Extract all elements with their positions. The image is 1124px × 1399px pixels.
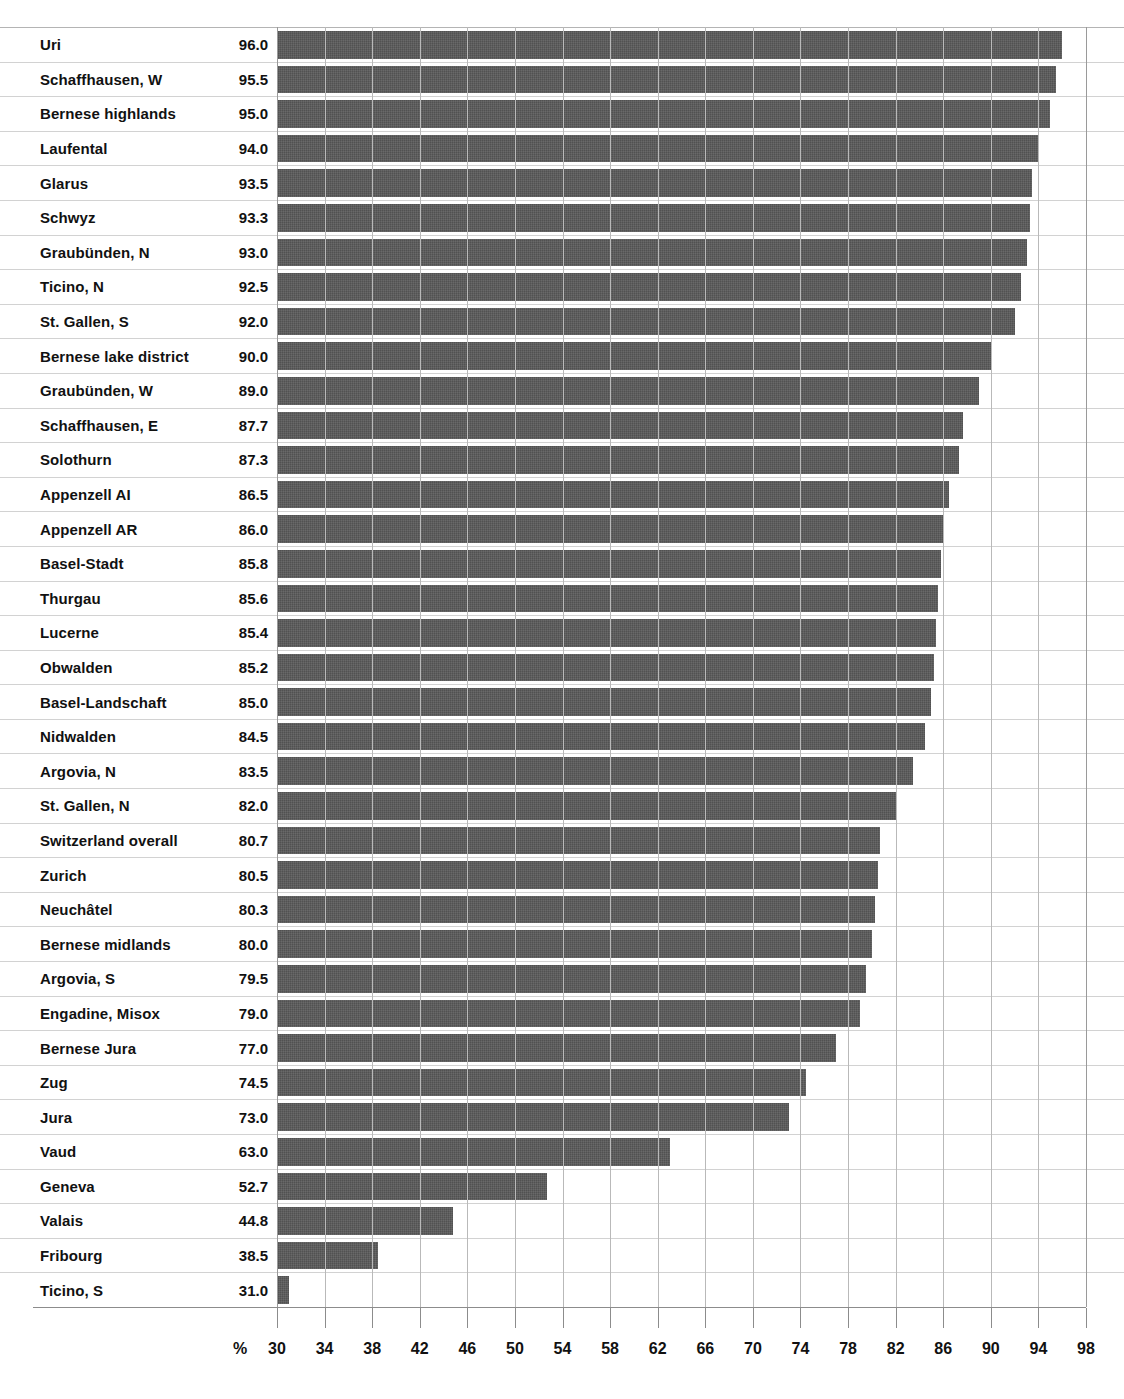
axis-tick — [991, 1308, 992, 1328]
bar — [277, 1034, 836, 1062]
x-axis-ticks — [277, 1308, 1086, 1328]
category-label: Geneva — [40, 1170, 95, 1204]
bar-cell — [277, 132, 1086, 166]
category-label: Schwyz — [40, 201, 96, 235]
category-label: Vaud — [40, 1135, 76, 1169]
value-label: 86.5 — [178, 478, 268, 512]
value-label: 84.5 — [178, 720, 268, 754]
axis-tick — [896, 1308, 897, 1328]
chart-row: Graubünden, W89.0 — [0, 373, 1124, 408]
bar-cell — [277, 824, 1086, 858]
category-label: Jura — [40, 1100, 72, 1134]
chart-row: Schaffhausen, E87.7 — [0, 408, 1124, 443]
chart-row: Ticino, S31.0 — [0, 1272, 1124, 1307]
chart-row: Bernese Jura77.0 — [0, 1030, 1124, 1065]
category-label: Laufental — [40, 132, 108, 166]
x-tick-label: 70 — [744, 1340, 762, 1358]
bar-cell — [277, 858, 1086, 892]
bar-cell — [277, 1100, 1086, 1134]
bar-cell — [277, 305, 1086, 339]
category-label: Nidwalden — [40, 720, 116, 754]
bar — [277, 1207, 453, 1235]
value-label: 93.0 — [178, 236, 268, 270]
bar — [277, 550, 941, 578]
axis-tick — [610, 1308, 611, 1328]
bar-cell — [277, 478, 1086, 512]
bar-cell — [277, 616, 1086, 650]
value-label: 73.0 — [178, 1100, 268, 1134]
bar-cell — [277, 374, 1086, 408]
bar-cell — [277, 1135, 1086, 1169]
value-label: 85.6 — [178, 582, 268, 616]
bar — [277, 273, 1021, 301]
chart-row: Engadine, Misox79.0 — [0, 996, 1124, 1031]
bar — [277, 66, 1056, 94]
bar — [277, 342, 991, 370]
axis-tick — [1038, 1308, 1039, 1328]
chart-row: Zug74.5 — [0, 1065, 1124, 1100]
bar — [277, 412, 963, 440]
bar — [277, 515, 943, 543]
category-label: Neuchâtel — [40, 893, 113, 927]
chart-row: Basel-Stadt85.8 — [0, 546, 1124, 581]
value-label: 38.5 — [178, 1239, 268, 1273]
bar-cell — [277, 1273, 1086, 1307]
chart-row: Graubünden, N93.0 — [0, 235, 1124, 270]
category-label: Thurgau — [40, 582, 101, 616]
value-label: 93.5 — [178, 166, 268, 200]
category-label: St. Gallen, N — [40, 789, 130, 823]
axis-tick — [705, 1308, 706, 1328]
bar-cell — [277, 270, 1086, 304]
chart-row: Bernese midlands80.0 — [0, 926, 1124, 961]
bar-cell — [277, 685, 1086, 719]
chart-row: Lucerne85.4 — [0, 615, 1124, 650]
horizontal-bar-chart: Uri96.0Schaffhausen, W95.5Bernese highla… — [0, 0, 1124, 1399]
x-tick-label: 38 — [363, 1340, 381, 1358]
chart-row: Vaud63.0 — [0, 1134, 1124, 1169]
axis-tick — [467, 1308, 468, 1328]
bar-cell — [277, 962, 1086, 996]
value-label: 86.0 — [178, 512, 268, 546]
bar — [277, 169, 1032, 197]
chart-row: Schaffhausen, W95.5 — [0, 62, 1124, 97]
x-tick-label: 98 — [1077, 1340, 1095, 1358]
chart-row: Argovia, N83.5 — [0, 753, 1124, 788]
value-label: 80.5 — [178, 858, 268, 892]
chart-row: Laufental94.0 — [0, 131, 1124, 166]
bar — [277, 31, 1062, 59]
category-label: Solothurn — [40, 443, 112, 477]
category-label: Glarus — [40, 166, 88, 200]
bar-cell — [277, 166, 1086, 200]
x-tick-label: 62 — [649, 1340, 667, 1358]
value-label: 96.0 — [178, 28, 268, 62]
bar-cell — [277, 63, 1086, 97]
category-label: Engadine, Misox — [40, 997, 160, 1031]
chart-row: Geneva52.7 — [0, 1169, 1124, 1204]
axis-tick — [753, 1308, 754, 1328]
bar-cell — [277, 720, 1086, 754]
x-tick-label: 78 — [839, 1340, 857, 1358]
bar — [277, 446, 959, 474]
bar-cell — [277, 1031, 1086, 1065]
x-axis-unit-label: % — [233, 1340, 247, 1358]
category-label: Ticino, S — [40, 1273, 103, 1307]
bar — [277, 861, 878, 889]
value-label: 79.5 — [178, 962, 268, 996]
chart-row: Fribourg38.5 — [0, 1238, 1124, 1273]
chart-row: Argovia, S79.5 — [0, 961, 1124, 996]
chart-row: St. Gallen, S92.0 — [0, 304, 1124, 339]
axis-tick — [658, 1308, 659, 1328]
bar — [277, 723, 925, 751]
value-label: 90.0 — [178, 339, 268, 373]
chart-row: Appenzell AI86.5 — [0, 477, 1124, 512]
value-label: 92.0 — [178, 305, 268, 339]
bar — [277, 239, 1027, 267]
chart-row: Obwalden85.2 — [0, 650, 1124, 685]
bar-cell — [277, 1066, 1086, 1100]
bar-cell — [277, 893, 1086, 927]
category-label: Obwalden — [40, 651, 112, 685]
chart-title — [40, 0, 1080, 2]
x-axis-line — [33, 1307, 1086, 1308]
chart-row: Zurich80.5 — [0, 857, 1124, 892]
bar — [277, 585, 938, 613]
